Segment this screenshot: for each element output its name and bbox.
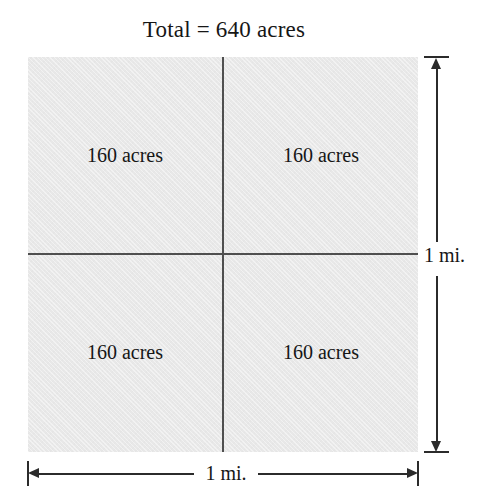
vertical-dimension-cap-bottom: [424, 451, 449, 453]
figure-title: Total = 640 acres: [0, 16, 492, 44]
figure-title-text: Total = 640 acres: [143, 16, 305, 44]
vertical-dimension-line-lower: [436, 276, 438, 446]
quadrant-label-bottom-left: 160 acres: [28, 340, 222, 364]
quadrant-label-bottom-right: 160 acres: [224, 340, 418, 364]
horizontal-dimension-line-left: [34, 473, 194, 475]
vertical-dimension-line-upper: [436, 64, 438, 242]
horizontal-dimension-line-right: [258, 473, 412, 475]
horizontal-dimension-cap-right: [417, 461, 419, 486]
horizontal-dimension-label: 1 mi.: [194, 461, 258, 485]
horizontal-divider-line: [28, 253, 418, 255]
quadrant-label-top-right: 160 acres: [224, 143, 418, 167]
quadrant-label-top-left: 160 acres: [28, 143, 222, 167]
figure-canvas: Total = 640 acres 160 acres 160 acres 16…: [0, 0, 492, 501]
vertical-dimension-label: 1 mi.: [424, 243, 465, 267]
